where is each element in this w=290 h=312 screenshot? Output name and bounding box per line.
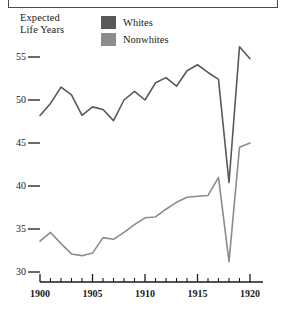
y-axis-tick-label: 35 — [0, 223, 26, 234]
series-line-nonwhites — [40, 143, 250, 262]
y-axis-tick-label: 55 — [0, 51, 26, 62]
y-axis-tick-label: 30 — [0, 266, 26, 277]
y-axis-tick-label: 50 — [0, 94, 26, 105]
x-axis-tick-label: 1905 — [73, 288, 113, 299]
y-axis-tick-label: 45 — [0, 137, 26, 148]
x-axis-tick-label: 1910 — [125, 288, 165, 299]
series-line-whites — [40, 47, 250, 183]
line-chart-plot — [0, 0, 290, 312]
x-axis-tick-label: 1920 — [230, 288, 270, 299]
y-axis-tick-label: 40 — [0, 180, 26, 191]
x-axis-tick-label: 1915 — [178, 288, 218, 299]
x-axis-tick-label: 1900 — [20, 288, 60, 299]
